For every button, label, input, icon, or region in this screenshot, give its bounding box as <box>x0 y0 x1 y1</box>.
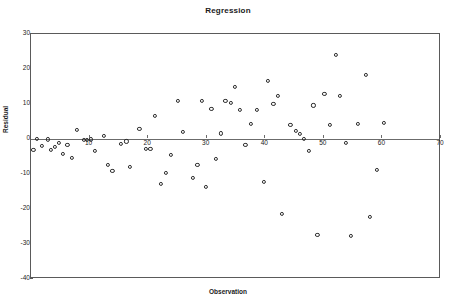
data-point <box>191 176 195 180</box>
data-point <box>65 143 69 147</box>
y-tick-label: 30 <box>6 30 30 37</box>
y-tick-label: -10 <box>6 170 30 177</box>
data-point <box>61 152 65 156</box>
data-point <box>238 108 242 112</box>
y-tick-label: 0 <box>6 135 30 142</box>
data-point <box>243 143 247 147</box>
data-point <box>49 148 53 152</box>
data-point <box>307 149 311 153</box>
data-point <box>311 103 315 107</box>
data-point <box>382 121 386 125</box>
data-point <box>181 130 185 134</box>
data-point <box>169 153 173 157</box>
data-point <box>364 73 368 77</box>
data-point <box>110 168 114 172</box>
data-point <box>375 168 379 172</box>
data-point <box>288 123 292 127</box>
data-point <box>144 147 148 151</box>
data-point <box>31 147 35 151</box>
data-point <box>349 234 353 238</box>
data-point <box>200 99 204 103</box>
y-tick-label: 10 <box>6 100 30 107</box>
data-point <box>315 232 319 236</box>
data-point <box>262 180 266 184</box>
y-tick-label: -40 <box>6 275 30 282</box>
data-point <box>102 134 106 138</box>
data-point <box>343 141 347 145</box>
data-point <box>368 215 372 219</box>
data-point <box>119 142 123 146</box>
plot-area <box>30 33 440 278</box>
y-tick-label: 20 <box>6 65 30 72</box>
data-point <box>275 94 279 98</box>
data-point <box>148 147 152 151</box>
y-tick-mark <box>30 278 33 279</box>
data-point <box>233 85 237 89</box>
data-point <box>53 145 57 149</box>
data-point <box>137 127 141 131</box>
data-point <box>280 212 284 216</box>
data-point <box>164 171 168 175</box>
data-point <box>271 102 275 106</box>
data-point <box>219 131 223 135</box>
x-axis-label: Observation <box>0 288 456 295</box>
data-point <box>159 182 163 186</box>
y-tick-label: -20 <box>6 205 30 212</box>
data-point <box>46 137 50 141</box>
y-axis: 3020100-10-20-30-40 <box>0 33 30 278</box>
data-point <box>298 132 302 136</box>
data-point <box>89 137 93 141</box>
data-point <box>302 137 306 141</box>
data-point <box>106 162 110 166</box>
y-tick-label: -30 <box>6 240 30 247</box>
data-point <box>254 108 258 112</box>
data-point <box>39 144 43 148</box>
data-point <box>124 139 128 143</box>
data-point <box>93 149 97 153</box>
data-point <box>75 127 79 131</box>
data-point <box>356 122 360 126</box>
data-point <box>176 99 180 103</box>
data-point <box>204 185 208 189</box>
data-point <box>128 165 132 169</box>
data-point <box>214 157 218 161</box>
regression-residual-chart: Regression Residual Observation 3020100-… <box>0 0 456 305</box>
data-point <box>328 123 332 127</box>
data-point <box>57 141 61 145</box>
data-point <box>338 94 342 98</box>
data-point <box>322 92 326 96</box>
data-point <box>223 99 227 103</box>
data-point <box>229 101 233 105</box>
data-point <box>35 137 39 141</box>
data-point <box>333 53 337 57</box>
data-point <box>249 122 253 126</box>
data-point <box>195 162 199 166</box>
data-point <box>70 155 74 159</box>
x-tick-mark <box>440 135 441 138</box>
data-point <box>266 79 270 83</box>
data-point <box>153 114 157 118</box>
chart-title: Regression <box>0 6 456 15</box>
data-point <box>209 107 213 111</box>
